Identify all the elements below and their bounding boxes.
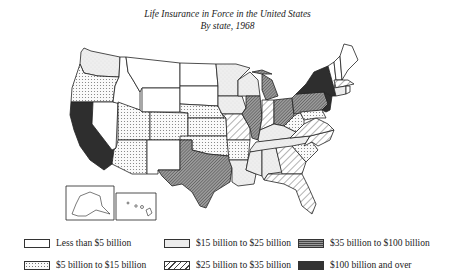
legend-item-25to35: $25 billion to $35 billion [164,259,291,271]
legend-swatch-solid [298,261,324,270]
state-wyoming [142,88,180,112]
state-north-dakota [180,63,218,86]
legend-item-15to25: $15 billion to $25 billion [164,237,291,249]
legend-item-5to15: $5 billion to $15 billion [24,259,146,271]
legend-item-lt5: Less than $5 billion [24,237,131,249]
state-rhode-island [346,86,350,94]
legend-label: $25 billion to $35 billion [196,260,291,270]
legend-swatch-dense-hatch [298,239,324,248]
state-south-dakota [180,86,218,106]
state-iowa [218,96,246,114]
legend-label: $5 billion to $15 billion [56,260,146,270]
legend-item-100plus: $100 billion and over [298,259,412,271]
legend-item-35to100: $35 billion to $100 billion [298,237,430,249]
state-new-mexico [147,140,180,174]
state-arkansas [227,140,250,160]
state-connecticut [334,86,346,96]
legend-swatch-wide-hatch [164,261,190,270]
legend-swatch-stipple [164,239,190,248]
legend-label: $15 billion to $25 billion [196,238,291,248]
state-maryland [300,110,326,120]
legend-label: $100 billion and over [330,260,412,270]
legend-label: $35 billion to $100 billion [330,238,430,248]
state-kansas [188,118,227,136]
us-map [0,0,455,276]
state-maine [340,44,358,80]
state-florida [264,174,316,214]
state-arizona [112,140,147,174]
state-washington [80,48,120,77]
legend-label: Less than $5 billion [56,238,131,248]
legend-swatch-dots [24,261,50,270]
legend-swatch-blank [24,239,50,248]
